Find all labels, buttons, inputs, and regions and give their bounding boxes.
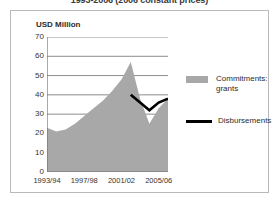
legend-area-swatch-icon xyxy=(186,76,208,83)
chart-container: 1993-2006 (2006 constant prices) USD Mil… xyxy=(0,0,279,204)
commitments-grants-area xyxy=(47,62,168,172)
y-axis-tick-label: 20 xyxy=(35,129,44,137)
y-axis-tick-label: 0 xyxy=(40,168,44,176)
legend-item-disbursements: Disbursements xyxy=(186,116,274,130)
y-axis-tick-label: 40 xyxy=(35,91,44,99)
y-axis-tick-label: 70 xyxy=(35,33,44,41)
y-axis-tick-label: 50 xyxy=(35,72,44,80)
legend-label-commitments: Commitments: grants xyxy=(216,74,274,94)
legend-label-disbursements: Disbursements xyxy=(218,116,274,126)
x-axis-tick-label: 2001/02 xyxy=(108,176,135,185)
x-axis-tick-label: 1993/94 xyxy=(33,176,60,185)
legend-item-commitments: Commitments: grants xyxy=(186,74,274,94)
y-axis-tick-label: 10 xyxy=(35,149,44,157)
chart-title: 1993-2006 (2006 constant prices) xyxy=(0,0,279,5)
x-axis-tick-label: 2005/06 xyxy=(145,176,172,185)
y-axis-unit-label: USD Million xyxy=(36,20,80,29)
y-axis-tick-label: 30 xyxy=(35,110,44,118)
x-axis-tick-label: 1997/98 xyxy=(71,176,98,185)
x-axis-tick-labels: 1993/941997/982001/022005/06 xyxy=(47,176,168,188)
y-axis-tick-labels: 010203040506070 xyxy=(20,37,44,172)
plot-area xyxy=(47,37,168,172)
legend-line-swatch-icon xyxy=(186,120,212,123)
plot-svg xyxy=(47,37,168,172)
chart-legend: Commitments: grants Disbursements xyxy=(186,74,274,152)
y-axis-tick-label: 60 xyxy=(35,52,44,60)
